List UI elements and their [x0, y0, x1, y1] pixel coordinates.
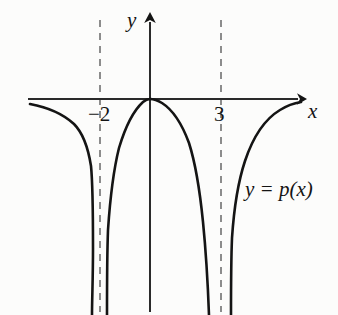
- y-axis-label: y: [127, 10, 136, 31]
- x-tick-label-3: 3: [214, 104, 225, 125]
- plot-canvas: [0, 0, 338, 315]
- curve-branch-middle-left: [107, 99, 150, 315]
- curve-branch-middle-right: [150, 99, 209, 315]
- curve-equation-label: y = p(x): [245, 179, 313, 200]
- y-axis-arrowhead-icon: [144, 12, 156, 23]
- curve-branch-far-right: [231, 102, 301, 315]
- x-tick-label-neg2: −2: [88, 104, 110, 125]
- curve-branch-far-left: [30, 104, 93, 315]
- function-graph-figure: y x −2 3 y = p(x): [0, 0, 338, 315]
- x-axis-label: x: [308, 101, 317, 122]
